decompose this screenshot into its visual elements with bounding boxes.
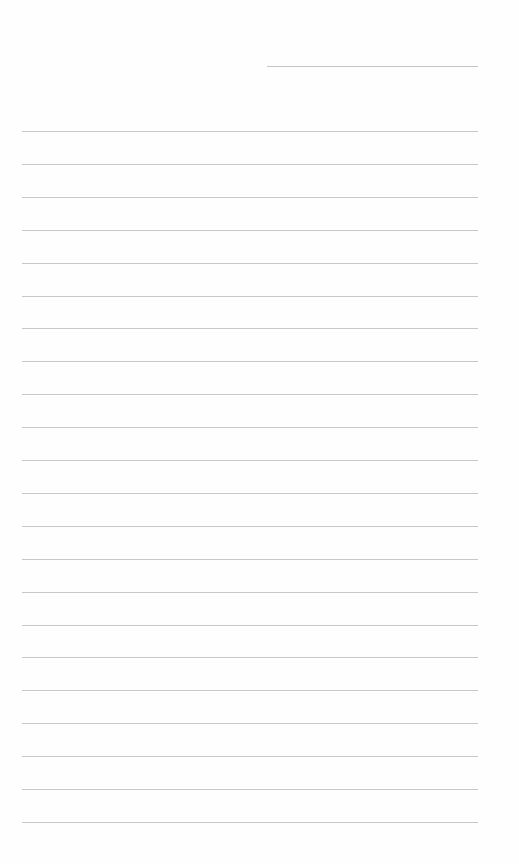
ruled-line	[22, 756, 478, 757]
ruled-line	[22, 789, 478, 790]
ruled-line	[22, 164, 478, 165]
ruled-line	[22, 526, 478, 527]
ruled-line	[22, 460, 478, 461]
ruled-line	[22, 625, 478, 626]
ruled-line	[22, 559, 478, 560]
ruled-line	[22, 427, 478, 428]
ruled-line	[22, 592, 478, 593]
ruled-line	[22, 690, 478, 691]
ruled-line	[22, 723, 478, 724]
lined-paper-page	[0, 0, 519, 864]
ruled-line	[22, 822, 478, 823]
ruled-line	[22, 657, 478, 658]
ruled-line	[22, 230, 478, 231]
ruled-line	[22, 361, 478, 362]
ruled-line	[22, 394, 478, 395]
ruled-line	[22, 296, 478, 297]
header-name-line	[267, 66, 478, 67]
ruled-line	[22, 197, 478, 198]
ruled-line	[22, 263, 478, 264]
ruled-line	[22, 328, 478, 329]
ruled-line	[22, 493, 478, 494]
ruled-line	[22, 131, 478, 132]
